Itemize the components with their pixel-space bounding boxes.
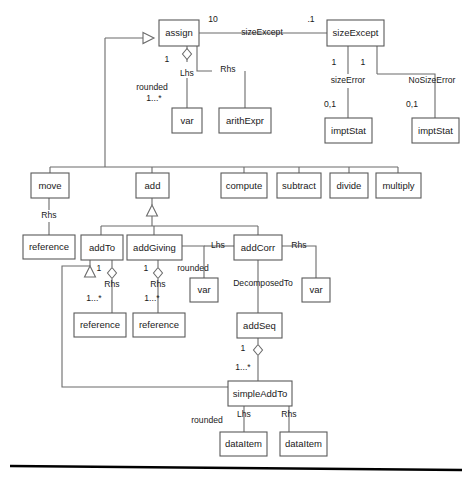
role-label-r-lhs-assign: Lhs xyxy=(180,68,194,78)
role-label-r-sizeexcept: sizeExcept xyxy=(241,27,283,37)
class-box-reference_m[interactable]: reference xyxy=(23,235,75,259)
class-box-var_corr_r[interactable]: var xyxy=(302,278,330,302)
role-label-r-lhs-simple: Lhs xyxy=(237,409,251,419)
class-name-move: move xyxy=(38,180,61,191)
multiplicity-m-addto-star: 1...* xyxy=(86,293,102,303)
class-box-reference_b[interactable]: reference xyxy=(133,313,185,337)
class-box-addCorr[interactable]: addCorr xyxy=(234,235,282,260)
class-name-var_lhs: var xyxy=(180,115,193,126)
multiplicity-m-sizeerror-1: 1 xyxy=(332,57,337,67)
class-box-arithExpr[interactable]: arithExpr xyxy=(219,108,271,133)
class-box-compute[interactable]: compute xyxy=(221,173,267,198)
class-name-addSeq: addSeq xyxy=(243,320,276,331)
multiplicity-m-addgiving-star: 1...* xyxy=(144,293,160,303)
class-diagram-canvas: assignsizeExceptvararithExprimptStatimpt… xyxy=(0,0,471,482)
multiplicity-m-addseq-star: 1...* xyxy=(235,362,251,372)
association-edge-e-addcorr-rhs xyxy=(282,246,316,278)
multiplicity-m-nosizeerror-01: 0,1 xyxy=(406,99,418,109)
aggregation-diamond-agg-addto xyxy=(108,268,117,279)
class-box-var_lhs[interactable]: var xyxy=(172,108,202,133)
class-name-sizeExcept: sizeExcept xyxy=(333,27,379,38)
class-name-addGiving: addGiving xyxy=(133,242,176,253)
class-boxes-layer: assignsizeExceptvararithExprimptStatimpt… xyxy=(23,20,459,456)
multiplicity-m-rounded-star: 1...* xyxy=(146,93,162,103)
class-name-var_corr_r: var xyxy=(309,284,322,295)
association-edge-e-assign-rhs-v xyxy=(197,46,212,71)
multiplicity-m-sizeerror-01: 0,1 xyxy=(324,99,336,109)
aggregation-diamond-agg-addseq xyxy=(254,345,263,356)
class-name-reference_m: reference xyxy=(29,241,69,252)
aggregation-diamond-agg-assign-lhs xyxy=(183,49,192,60)
class-name-addCorr: addCorr xyxy=(241,242,275,253)
class-box-sizeExcept[interactable]: sizeExcept xyxy=(327,20,384,46)
multiplicity-m-assign-10: 10 xyxy=(208,14,218,24)
aggregation-diamond-agg-addgiving xyxy=(154,268,163,279)
footer-layer xyxy=(10,466,462,470)
class-box-dataItem_l[interactable]: dataItem xyxy=(220,432,267,456)
class-name-subtract: subtract xyxy=(282,180,316,191)
multiplicity-m-addgiving-1: 1 xyxy=(144,263,149,273)
multiplicity-m-addto-1: 1 xyxy=(97,263,102,273)
multiplicity-m-sizeexcept-1: .1 xyxy=(307,14,314,24)
class-box-subtract[interactable]: subtract xyxy=(277,173,321,198)
class-box-divide[interactable]: divide xyxy=(330,173,368,198)
class-box-simpleAddTo[interactable]: simpleAddTo xyxy=(228,381,292,406)
class-box-move[interactable]: move xyxy=(31,173,69,198)
class-name-arithExpr: arithExpr xyxy=(226,115,264,126)
class-box-addTo[interactable]: addTo xyxy=(81,235,123,260)
class-name-reference_a: reference xyxy=(80,319,120,330)
footer-rule xyxy=(10,466,462,470)
generalization-triangle-gen-addto xyxy=(85,266,96,277)
role-label-r-rounded-addg: rounded xyxy=(177,263,209,273)
role-label-r-rhs-addgiving: Rhs xyxy=(150,279,165,289)
role-label-r-rhs-move: Rhs xyxy=(41,210,56,220)
class-name-assign: assign xyxy=(165,27,192,38)
multiplicity-m-assign-lhs-1: 1 xyxy=(165,54,170,64)
class-box-imptStat_r[interactable]: imptStat xyxy=(412,118,459,143)
uml-class-diagram: assignsizeExceptvararithExprimptStatimpt… xyxy=(0,0,471,482)
class-name-addTo: addTo xyxy=(89,242,115,253)
class-name-imptStat_l: imptStat xyxy=(331,125,366,136)
class-name-add: add xyxy=(145,180,161,191)
role-label-r-sizeerror: sizeError xyxy=(331,75,366,85)
class-name-dataItem_r: dataItem xyxy=(285,438,322,449)
class-name-imptStat_r: imptStat xyxy=(418,125,453,136)
role-label-r-rhs-assign: Rhs xyxy=(220,64,235,74)
role-label-r-rounded-simple: rounded xyxy=(191,415,223,425)
class-name-simpleAddTo: simpleAddTo xyxy=(233,388,287,399)
role-label-r-lhs-addcorr: Lhs xyxy=(211,240,225,250)
class-box-addGiving[interactable]: addGiving xyxy=(127,235,182,260)
class-name-dataItem_l: dataItem xyxy=(225,438,262,449)
generalization-triangle-gen-assign xyxy=(143,33,154,44)
multiplicity-m-nosizeerror-1: 1 xyxy=(361,57,366,67)
class-name-divide: divide xyxy=(337,180,362,191)
class-name-reference_b: reference xyxy=(139,319,179,330)
class-box-assign[interactable]: assign xyxy=(159,20,199,46)
labels-layer: sizeExceptLhsRhsroundedsizeErrorNoSizeEr… xyxy=(41,14,455,425)
class-box-var_corr_l[interactable]: var xyxy=(190,278,218,302)
role-label-r-rhs-addto: Rhs xyxy=(104,279,119,289)
class-name-var_corr_l: var xyxy=(197,284,210,295)
role-label-r-rhs-addcorr: Rhs xyxy=(291,240,306,250)
role-label-r-rounded-assign: rounded xyxy=(136,82,168,92)
class-name-compute: compute xyxy=(226,180,262,191)
class-box-addSeq[interactable]: addSeq xyxy=(237,313,282,338)
class-box-add[interactable]: add xyxy=(136,173,169,198)
class-box-reference_a[interactable]: reference xyxy=(74,313,126,337)
class-box-imptStat_l[interactable]: imptStat xyxy=(325,118,372,143)
role-label-r-rhs-simple: Rhs xyxy=(281,409,296,419)
generalization-triangle-gen-add xyxy=(147,205,158,216)
class-box-multiply[interactable]: multiply xyxy=(376,173,421,198)
role-label-r-decomposedto: DecomposedTo xyxy=(233,278,293,288)
multiplicity-m-addseq-1: 1 xyxy=(241,343,246,353)
class-name-multiply: multiply xyxy=(382,180,414,191)
class-box-dataItem_r[interactable]: dataItem xyxy=(280,432,327,456)
role-label-r-nosizeerror: NoSizeError xyxy=(409,75,456,85)
